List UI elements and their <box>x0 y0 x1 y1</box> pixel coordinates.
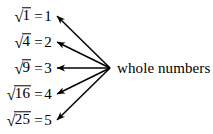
equation-row: √1=1 <box>14 7 52 24</box>
radical-expression: √9 <box>14 59 32 76</box>
result-value: 2 <box>44 34 52 50</box>
result-value: 5 <box>44 112 52 128</box>
radicand-value: 1 <box>22 7 31 24</box>
equals-sign: = <box>32 60 44 76</box>
arrow-to-sqrt-25 <box>57 68 110 120</box>
equals-sign: = <box>32 112 44 128</box>
result-value: 1 <box>44 8 52 24</box>
radicand-value: 25 <box>14 111 31 128</box>
radicand-value: 9 <box>22 59 31 76</box>
whole-numbers-label: whole numbers <box>117 61 210 76</box>
arrow-to-sqrt-16 <box>57 68 110 94</box>
result-value: 3 <box>44 60 52 76</box>
equation-row: √4=2 <box>14 33 52 50</box>
equals-sign: = <box>32 8 44 24</box>
result-value: 4 <box>44 86 52 102</box>
radicand-value: 16 <box>14 85 31 102</box>
radical-expression: √16 <box>7 85 32 102</box>
equation-row: √9=3 <box>14 59 52 76</box>
equation-row: √25=5 <box>7 111 52 128</box>
radical-expression: √1 <box>14 7 32 24</box>
arrow-to-sqrt-4 <box>57 42 110 68</box>
arrow-to-sqrt-1 <box>57 16 110 68</box>
equals-sign: = <box>32 86 44 102</box>
equals-sign: = <box>32 34 44 50</box>
square-root-diagram: √1=1 √4=2 √9=3 √16=4 √25=5 whole numbers <box>0 0 213 134</box>
radical-expression: √25 <box>7 111 32 128</box>
radical-expression: √4 <box>14 33 32 50</box>
radicand-value: 4 <box>22 33 31 50</box>
equation-list: √1=1 √4=2 √9=3 √16=4 √25=5 <box>0 0 52 134</box>
equation-row: √16=4 <box>7 85 52 102</box>
